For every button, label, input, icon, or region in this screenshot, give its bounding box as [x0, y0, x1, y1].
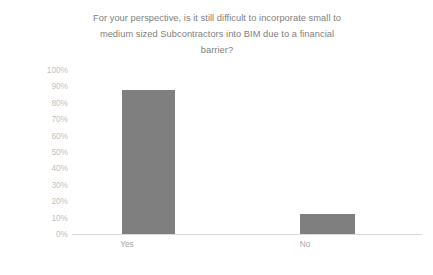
y-tick-label-10: 10%	[20, 213, 68, 222]
y-axis: 100% 90% 80% 70% 60% 50% 40% 30% 20% 10%…	[20, 70, 68, 234]
y-tick-label-60: 60%	[20, 131, 68, 140]
y-tick-label-50: 50%	[20, 148, 68, 157]
bar-chart: For your perspective, is it still diffic…	[0, 0, 433, 275]
chart-title-line-2: medium sized Subcontractors into BIM due…	[38, 26, 396, 42]
y-tick-label-40: 40%	[20, 164, 68, 173]
chart-title-line-1: For your perspective, is it still diffic…	[38, 10, 396, 26]
y-tick-label-30: 30%	[20, 180, 68, 189]
y-tick-label-70: 70%	[20, 115, 68, 124]
chart-title: For your perspective, is it still diffic…	[38, 10, 396, 59]
y-tick-label-0: 0%	[20, 230, 68, 239]
x-tick-label-yes: Yes	[96, 239, 158, 250]
y-tick-label-90: 90%	[20, 82, 68, 91]
plot-area	[72, 70, 422, 234]
x-axis-line	[72, 234, 422, 235]
x-tick-label-no: No	[272, 239, 338, 250]
chart-title-line-3: barrier?	[38, 42, 396, 58]
bar-no[interactable]	[300, 214, 355, 234]
y-tick-label-100: 100%	[20, 66, 68, 75]
y-tick-label-80: 80%	[20, 98, 68, 107]
y-tick-label-20: 20%	[20, 197, 68, 206]
bar-yes[interactable]	[122, 90, 175, 234]
